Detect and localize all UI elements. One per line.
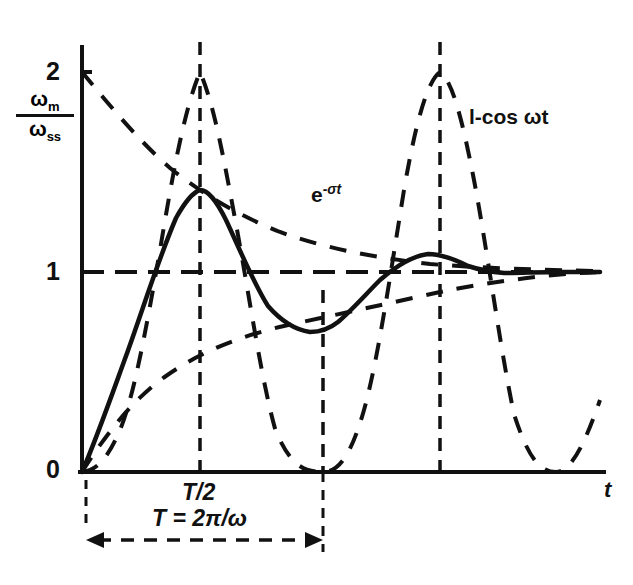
curve-main-response: [82, 190, 600, 472]
annotation-envelope-exponent: -σt: [323, 181, 341, 197]
dimension-arrow-left: [86, 532, 104, 548]
figure-root: 2 1 0 ωm ωss T/2 T = 2π/ω e-σt l-cos ωt …: [0, 0, 633, 585]
x-tick-label-half-period: T/2: [182, 479, 215, 506]
annotation-period: T = 2π/ω: [152, 505, 247, 532]
plot-svg: [0, 0, 633, 585]
curve-lower-envelope: [82, 272, 600, 472]
x-axis-label: t: [604, 477, 611, 503]
y-tick-label-1: 1: [46, 257, 60, 286]
y-axis-label-numerator: ωm: [16, 88, 74, 113]
annotation-envelope-base: e: [311, 183, 323, 206]
annotation-envelope: e-σt: [311, 181, 341, 207]
y-axis-label-denominator: ωss: [16, 118, 74, 143]
y-axis-label: ωm ωss: [16, 88, 74, 143]
y-tick-label-0: 0: [46, 455, 60, 484]
annotation-cosine-curve: l-cos ωt: [469, 105, 549, 129]
y-tick-label-2: 2: [46, 57, 60, 86]
dimension-arrow-right: [305, 532, 323, 548]
